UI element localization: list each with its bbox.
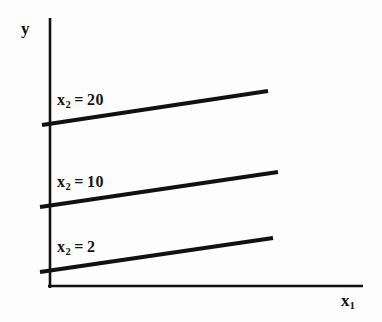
series-annotation-x2-20: x2=20	[57, 92, 104, 111]
x-axis-label-subscript: 1	[350, 299, 356, 311]
series-label-base: x	[57, 238, 66, 255]
series-label-equals: =	[71, 91, 87, 108]
series-annotation-x2-10: x2=10	[57, 174, 104, 193]
series-label-value: 20	[87, 91, 104, 108]
series-label-equals: =	[71, 173, 87, 190]
series-label-base: x	[57, 91, 66, 108]
x-axis-label: x1	[341, 292, 355, 311]
x-axis-label-base: x	[341, 291, 350, 310]
y-axis-label-text: y	[21, 19, 30, 38]
series-annotation-x2-2: x2=2	[57, 239, 95, 258]
series-label-base: x	[57, 173, 66, 190]
series-label-equals: =	[71, 238, 87, 255]
plot-area	[0, 0, 382, 322]
y-axis-label: y	[21, 20, 30, 37]
series-label-value: 2	[87, 238, 96, 255]
series-label-value: 10	[87, 173, 104, 190]
figure-canvas: y x1 x2=20 x2=10 x2=2	[0, 0, 382, 322]
